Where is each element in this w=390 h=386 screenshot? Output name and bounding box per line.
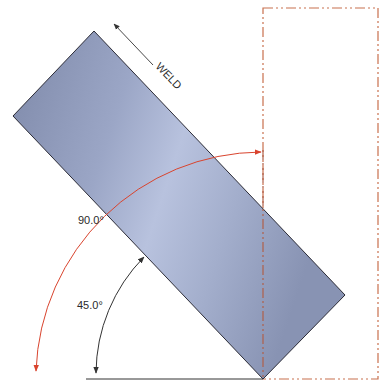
angle-arc-45: [96, 257, 144, 373]
angle-label-90: 90.0°: [78, 214, 104, 226]
weld-label: WELD: [154, 60, 185, 91]
angle-label-45: 45.0°: [77, 299, 103, 311]
weld-angle-diagram: WELD 90.0° 45.0°: [0, 0, 390, 386]
